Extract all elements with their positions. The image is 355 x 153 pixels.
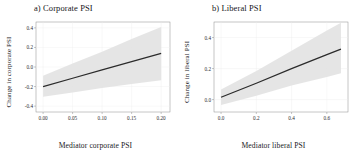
x-tick-label: 0.2 <box>253 115 259 121</box>
panel-b-plot-area: 0.00.20.40.00.20.40.6 <box>194 18 352 126</box>
y-tick-label: 0.0 <box>194 97 211 103</box>
y-tick-label: 0.2 <box>194 66 211 72</box>
x-tick-label: 0.10 <box>98 115 107 121</box>
x-tick-label: 0.6 <box>324 115 330 121</box>
panel-a-plot-area: -0.4-0.20.00.20.40.000.050.100.150.20 <box>16 18 174 126</box>
panel-b-title: b) Liberal PSI <box>212 3 262 13</box>
panel-a-plot-svg <box>16 18 174 126</box>
panel-b-y-axis-label: Change in liberal PSI <box>180 22 194 122</box>
y-tick-label: -0.2 <box>16 84 33 90</box>
panel-b-plot-svg <box>194 18 352 126</box>
y-tick-label: 0.4 <box>194 35 211 41</box>
y-tick-label: 0.2 <box>16 44 33 50</box>
panel-a-title: a) Corporate PSI <box>34 3 93 13</box>
panel-liberal-psi: b) Liberal PSI Change in liberal PSI 0.0… <box>178 0 355 153</box>
panel-b-x-axis-label: Mediator liberal PSI <box>196 141 351 150</box>
x-tick-label: 0.4 <box>288 115 294 121</box>
y-tick-label: -0.4 <box>16 103 33 109</box>
x-tick-label: 0.05 <box>68 115 77 121</box>
x-tick-label: 0.00 <box>39 115 48 121</box>
x-tick-label: 0.0 <box>218 115 224 121</box>
panel-corporate-psi: a) Corporate PSI Change in corporate PSI… <box>0 0 177 153</box>
y-tick-label: 0.4 <box>16 25 33 31</box>
panel-a-y-axis-label: Change in corporate PSI <box>2 22 16 122</box>
panel-a-x-axis-label: Mediator corporate PSI <box>18 141 173 150</box>
x-tick-label: 0.15 <box>127 115 136 121</box>
x-tick-label: 0.20 <box>157 115 166 121</box>
figure-container: a) Corporate PSI Change in corporate PSI… <box>0 0 355 153</box>
y-tick-label: 0.0 <box>16 64 33 70</box>
